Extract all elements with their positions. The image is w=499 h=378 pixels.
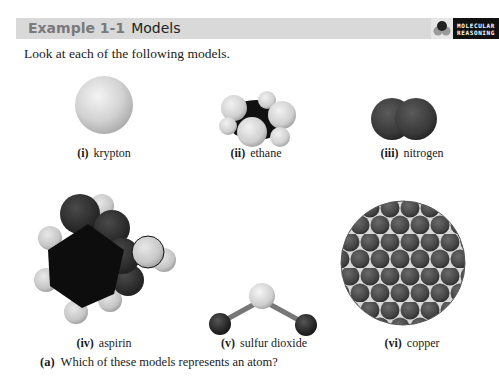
question-a: (a)Which of these models represents an a… bbox=[40, 355, 278, 370]
caption-text: krypton bbox=[93, 146, 130, 160]
krypton-atom-model bbox=[74, 75, 134, 135]
question-text: Which of these models represents an atom… bbox=[61, 355, 278, 369]
caption-text: nitrogen bbox=[404, 146, 444, 160]
question-label: (a) bbox=[40, 355, 55, 369]
nitrogen-molecule-model bbox=[370, 95, 440, 143]
caption-krypton: (i)krypton bbox=[77, 146, 131, 161]
badge-label: MOLECULAR REASONING bbox=[453, 18, 499, 39]
caption-number: (i) bbox=[77, 146, 88, 160]
caption-sulfur-dioxide: (v)sulfur dioxide bbox=[221, 336, 307, 351]
caption-nitrogen: (iii)nitrogen bbox=[381, 146, 444, 161]
caption-number: (iv) bbox=[77, 336, 94, 350]
example-header-bar: Example 1-1Models bbox=[16, 18, 499, 39]
molecular-reasoning-badge: MOLECULAR REASONING bbox=[431, 18, 499, 39]
example-name: Models bbox=[131, 20, 180, 36]
caption-text: sulfur dioxide bbox=[240, 336, 307, 350]
caption-number: (vi) bbox=[385, 336, 402, 350]
aspirin-molecule-model bbox=[28, 190, 178, 330]
molecule-icon bbox=[431, 18, 453, 39]
badge-line2: REASONING bbox=[457, 29, 495, 36]
copper-lattice-model bbox=[340, 200, 466, 326]
caption-ethane: (ii)ethane bbox=[231, 146, 282, 161]
example-title: Example 1-1Models bbox=[28, 19, 180, 38]
caption-text: copper bbox=[407, 336, 440, 350]
caption-aspirin: (iv)aspirin bbox=[77, 336, 132, 351]
sulfur-dioxide-molecule-model bbox=[200, 278, 330, 338]
caption-number: (v) bbox=[221, 336, 235, 350]
example-number: Example 1-1 bbox=[28, 20, 125, 36]
caption-text: ethane bbox=[250, 146, 281, 160]
caption-number: (iii) bbox=[381, 146, 399, 160]
caption-number: (ii) bbox=[231, 146, 246, 160]
badge-line1: MOLECULAR bbox=[457, 22, 495, 29]
intro-text: Look at each of the following models. bbox=[24, 46, 230, 62]
caption-text: aspirin bbox=[99, 336, 132, 350]
caption-copper: (vi)copper bbox=[385, 336, 440, 351]
ethane-molecule-model bbox=[212, 82, 302, 152]
